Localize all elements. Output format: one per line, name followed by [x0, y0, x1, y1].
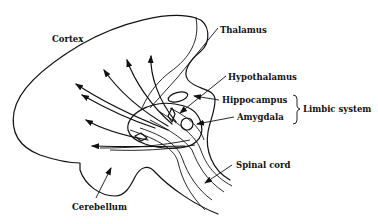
label-hippocampus: Hippocampus [222, 95, 288, 105]
amygdala-pointer [197, 117, 234, 124]
label-cortex: Cortex [52, 34, 84, 44]
limbic-bracket [293, 95, 300, 124]
brain-outline [13, 16, 218, 214]
brain-diagram: Cortex Thalamus Hypothalamus Hippocampus… [0, 0, 378, 224]
label-spinal-cord: Spinal cord [236, 160, 291, 170]
label-thalamus: Thalamus [220, 25, 267, 35]
label-cerebellum: Cerebellum [72, 202, 127, 212]
thalamus-line [142, 18, 197, 108]
label-hypothalamus: Hypothalamus [228, 72, 297, 82]
hypothalamus-pointer [180, 76, 226, 113]
label-limbic-system: Limbic system [303, 104, 371, 114]
projection-arrow-4 [151, 56, 176, 122]
fiber-2 [140, 128, 212, 200]
limbic-loop [128, 103, 202, 148]
projection-arrow-6 [86, 120, 148, 140]
projection-arrow-7 [92, 146, 185, 147]
spinal-cord-pointer [205, 165, 232, 183]
hypothalamus-shape [167, 90, 189, 104]
brain-diagram-svg: Cortex Thalamus Hypothalamus Hippocampus… [0, 0, 378, 224]
label-amygdala: Amygdala [236, 112, 284, 122]
